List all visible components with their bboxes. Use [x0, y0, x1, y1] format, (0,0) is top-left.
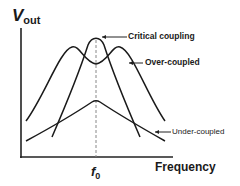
f0-tick-label: f0 — [91, 164, 100, 181]
y-axis-label: Vout — [12, 6, 40, 26]
x-axis-label: Frequency — [155, 160, 216, 174]
coupling-diagram: Vout Critical coupling Over-coupled Unde… — [0, 0, 240, 186]
over-coupled-label: Over-coupled — [145, 57, 200, 67]
critical-coupling-label: Critical coupling — [128, 31, 195, 41]
plot-area — [0, 0, 240, 186]
under-coupled-label: Under-coupled — [172, 127, 224, 136]
